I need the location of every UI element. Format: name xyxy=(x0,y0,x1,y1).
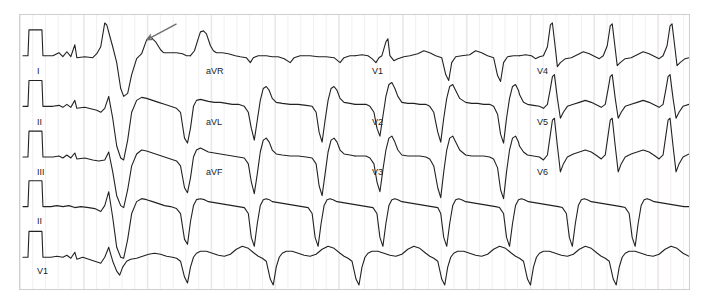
lead-label-ii: II xyxy=(37,118,42,127)
ecg-waveform xyxy=(355,83,520,144)
lead-label-avl: aVL xyxy=(206,118,222,127)
ecg-waveform xyxy=(23,131,190,207)
ecg-waveform xyxy=(520,23,689,67)
lead-label-v2: V2 xyxy=(372,118,383,127)
ecg-traces xyxy=(20,15,689,289)
lead-label-v6: V6 xyxy=(537,168,548,177)
lead-label-iii: III xyxy=(37,168,45,177)
ecg-image-root: IaVRV1V4IIaVLV2V5IIIaVFV3V6IIV1 xyxy=(0,0,714,307)
ecg-paper-panel: IaVRV1V4IIaVLV2V5IIIaVFV3V6IIV1 xyxy=(19,14,690,290)
lead-label-v1: V1 xyxy=(372,67,383,76)
rhythm-label-ii-rhythm: II xyxy=(37,217,42,226)
lead-label-avf: aVF xyxy=(206,168,223,177)
ecg-waveform xyxy=(23,81,190,160)
ecg-waveform xyxy=(190,86,355,142)
ecg-waveform xyxy=(23,181,689,258)
ecg-waveform xyxy=(23,23,190,96)
lead-label-v3: V3 xyxy=(372,168,383,177)
lead-label-avr: aVR xyxy=(206,67,224,76)
rhythm-label-v1-rhythm: V1 xyxy=(37,267,48,276)
ecg-waveform xyxy=(520,75,689,119)
lead-label-i: I xyxy=(37,67,40,76)
lead-label-v5: V5 xyxy=(537,118,548,127)
lead-label-v4: V4 xyxy=(537,67,548,76)
ecg-waveform xyxy=(190,31,355,63)
